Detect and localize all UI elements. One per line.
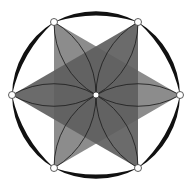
vertex-top-left (51, 19, 58, 26)
center-node (93, 92, 99, 98)
vertex-bottom-left (51, 165, 58, 172)
hexagram-diagram (0, 0, 193, 187)
crescent-bottom (54, 168, 138, 179)
crescent-top (54, 11, 138, 22)
vertex-right (177, 92, 184, 99)
vertex-top-right (135, 19, 142, 26)
vertex-left (9, 92, 16, 99)
vertex-bottom-right (135, 165, 142, 172)
